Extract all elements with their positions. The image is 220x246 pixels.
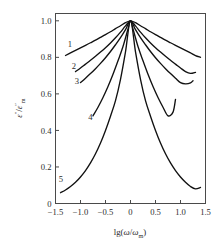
- y-tick-label: 0.4: [41, 126, 52, 136]
- x-axis-close-paren: ): [143, 227, 146, 237]
- y-tick-label: 0.6: [41, 89, 52, 99]
- curve-label-2: 2: [72, 61, 76, 71]
- curve-label-1: 1: [68, 39, 72, 49]
- x-tick-label: −1.0: [73, 207, 89, 217]
- x-tick-label: 0: [128, 207, 132, 217]
- y-axis-subscript-m: m: [19, 98, 26, 103]
- x-tick-label: 1.0: [175, 207, 186, 217]
- curve-label-3: 3: [75, 76, 79, 86]
- chart-figure: −1.5−1.0−0.500.51.01.5 00.20.40.60.81.0 …: [0, 0, 220, 246]
- x-tick-label: −0.5: [98, 207, 114, 217]
- y-tick-label: 0.8: [41, 52, 52, 62]
- curve-label-4: 4: [88, 112, 93, 122]
- x-tick-label: 0.5: [150, 207, 161, 217]
- y-tick-label: 1.0: [41, 16, 52, 26]
- y-tick-label: 0.2: [41, 162, 52, 172]
- dielectric-loss-chart: −1.5−1.0−0.500.51.01.5 00.20.40.60.81.0 …: [0, 0, 220, 246]
- y-tick-label: 0: [47, 199, 51, 209]
- x-tick-label: 1.5: [200, 207, 211, 217]
- x-axis-lg: lg(: [114, 227, 124, 237]
- curve-label-5: 5: [59, 174, 63, 184]
